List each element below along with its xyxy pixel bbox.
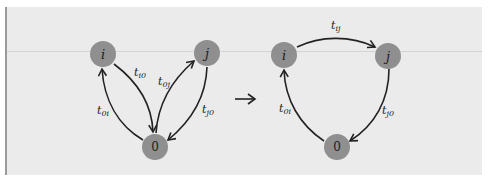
right-graph: i j 0 tij tj0 t0i <box>271 19 401 160</box>
edge-label-tj0: tj0 <box>382 104 394 118</box>
edge-i-to-j <box>297 38 375 47</box>
node-depot: 0 <box>142 134 168 160</box>
node-depot-label: 0 <box>333 140 341 154</box>
edge-label-t0i: t0i <box>97 104 110 118</box>
edge-0-to-i <box>284 70 324 141</box>
edge-label-t0i: t0i <box>279 102 292 116</box>
node-j: j <box>375 43 401 69</box>
node-i-label: i <box>101 47 105 62</box>
edge-label-tij: tij <box>331 19 341 33</box>
node-i-label: i <box>282 48 286 63</box>
edge-label-tj0: tj0 <box>202 103 214 117</box>
node-i: i <box>271 42 297 68</box>
transform-arrow-icon <box>235 94 255 104</box>
edge-0-to-j <box>156 61 194 133</box>
node-j: j <box>194 40 220 66</box>
edge-label-ti0: ti0 <box>134 66 146 80</box>
node-depot-label: 0 <box>151 140 159 154</box>
edge-0-to-i <box>102 69 143 140</box>
node-depot: 0 <box>324 134 350 160</box>
edge-label-t0j: t0j <box>158 75 171 89</box>
node-i: i <box>90 41 116 67</box>
left-graph: i j 0 t0i ti0 t0j tj0 <box>90 40 220 160</box>
diagram-canvas: i j 0 t0i ti0 t0j tj0 i <box>0 0 488 178</box>
